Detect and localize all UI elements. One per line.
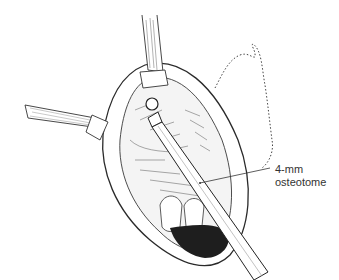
annotation-label-instrument: osteotome [275, 176, 326, 188]
round-structure [146, 98, 158, 110]
tooth-left [160, 196, 182, 232]
illustration-drawing: ​ [0, 0, 339, 280]
tooth-right [184, 199, 204, 230]
leader-dot [199, 182, 201, 184]
retractor-top [140, 15, 168, 88]
retractor-left [25, 105, 108, 140]
artist-signature: ​ [118, 75, 123, 81]
annotation-label-size: 4-mm [275, 163, 303, 175]
